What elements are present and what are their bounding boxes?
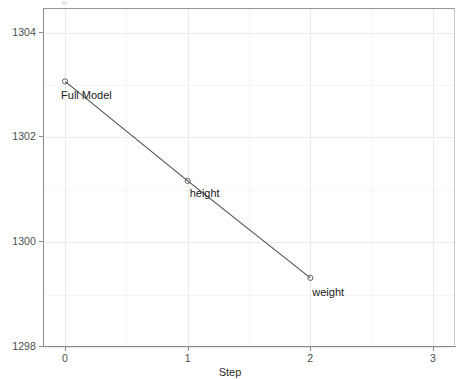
data-point-label: Full Model: [61, 89, 112, 101]
gridline-major-horizontal: [43, 33, 454, 34]
data-point-label: weight: [312, 286, 344, 298]
gridline-minor-vertical: [126, 9, 127, 346]
x-tick-mark: [310, 347, 311, 351]
y-tick-label: 1300: [0, 235, 36, 247]
gridline-major-horizontal: [43, 242, 454, 243]
gridline-major-vertical: [188, 9, 189, 346]
x-tick-label: 1: [185, 352, 191, 364]
gridline-major-vertical: [433, 9, 434, 346]
x-tick-mark: [65, 347, 66, 351]
x-axis-line: [43, 346, 456, 347]
y-tick-label: 1304: [0, 26, 36, 38]
y-tick-mark: [39, 136, 43, 137]
data-point-label: height: [190, 187, 220, 199]
y-tick-mark: [39, 241, 43, 242]
gridline-minor-vertical: [249, 9, 250, 346]
y-tick-label: 1302: [0, 130, 36, 142]
top-left-artifact: [62, 1, 67, 5]
x-tick-label: 2: [307, 352, 313, 364]
plot-panel: [43, 8, 455, 346]
x-tick-label: 3: [430, 352, 436, 364]
x-tick-mark: [433, 347, 434, 351]
gridline-major-horizontal: [43, 347, 454, 348]
y-tick-mark: [39, 32, 43, 33]
gridline-major-horizontal: [43, 137, 454, 138]
gridline-major-vertical: [65, 9, 66, 346]
gridline-minor-vertical: [372, 9, 373, 346]
y-tick-mark: [39, 346, 43, 347]
y-axis-line: [43, 8, 44, 347]
y-tick-label: 1298: [0, 340, 36, 352]
aic-step-chart: AIC 12981300130213040123 Full Modelheigh…: [0, 0, 460, 379]
x-tick-label: 0: [62, 352, 68, 364]
x-tick-mark: [188, 347, 189, 351]
x-axis-title: Step: [0, 366, 460, 378]
